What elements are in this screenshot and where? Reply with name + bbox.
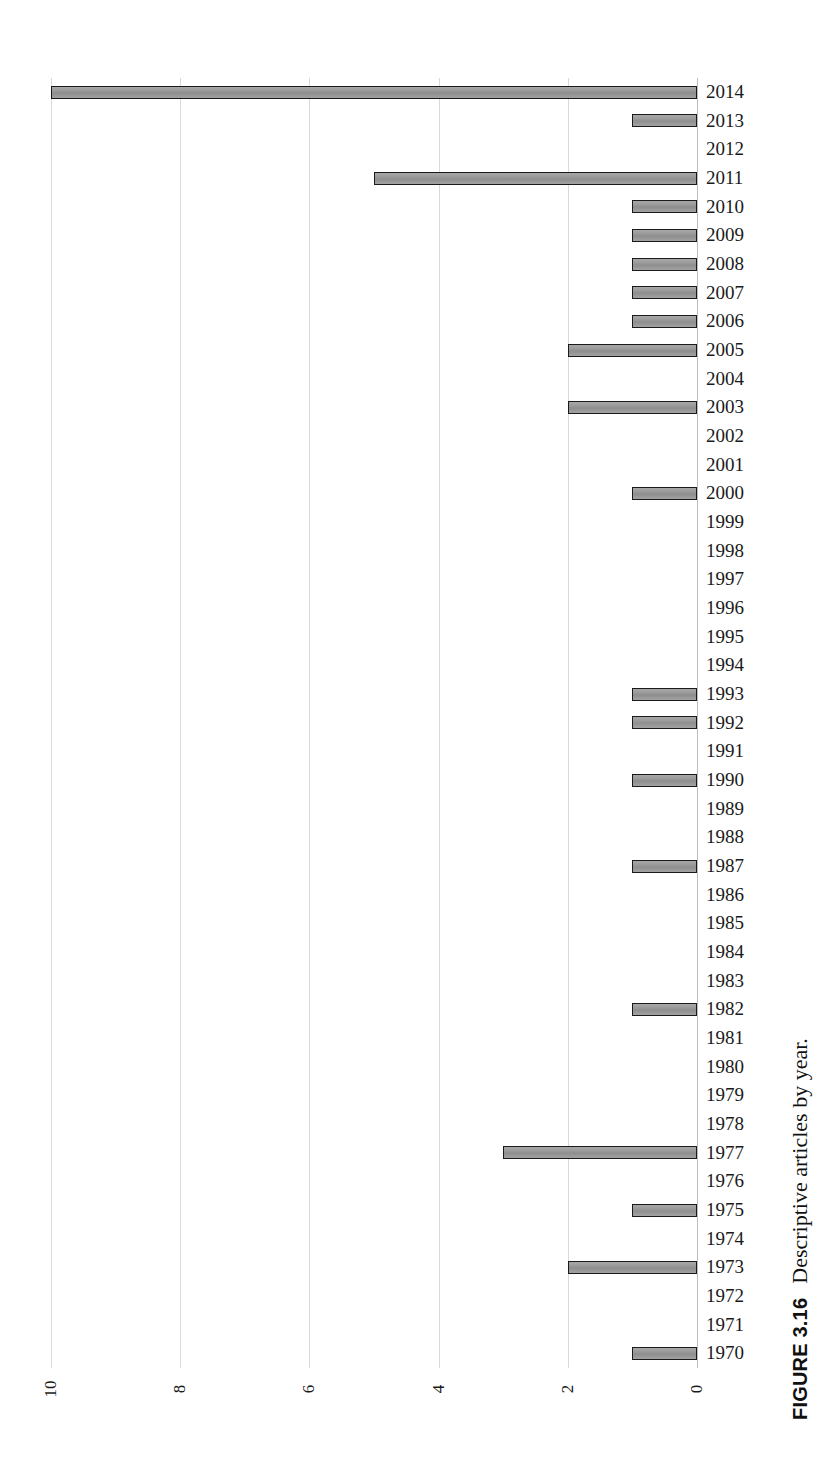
bar-row: 2008 bbox=[0, 250, 706, 279]
bar-1987 bbox=[632, 860, 697, 873]
bar-1973 bbox=[568, 1261, 697, 1274]
bar-2007 bbox=[632, 286, 697, 299]
bar-1970 bbox=[632, 1347, 697, 1360]
tick-label-10: 10 bbox=[34, 1372, 68, 1406]
bar-2010 bbox=[632, 200, 697, 213]
bar-row: 1984 bbox=[0, 938, 706, 967]
bar-row: 1970 bbox=[0, 1339, 706, 1368]
bar-row: 1999 bbox=[0, 508, 706, 537]
bar-row: 1976 bbox=[0, 1167, 706, 1196]
tick-label-4: 4 bbox=[422, 1372, 456, 1406]
bar-row: 1992 bbox=[0, 709, 706, 738]
bar-2000 bbox=[632, 487, 697, 500]
bar-row: 1989 bbox=[0, 795, 706, 824]
bar-row: 2013 bbox=[0, 107, 706, 136]
bar-row: 2004 bbox=[0, 365, 706, 394]
figure-caption: FIGURE 3.16Descriptive articles by year. bbox=[737, 0, 799, 1462]
bar-row: 1979 bbox=[0, 1081, 706, 1110]
bar-row: 2014 bbox=[0, 78, 706, 107]
bar-2005 bbox=[568, 344, 697, 357]
bar-2006 bbox=[632, 315, 697, 328]
bar-row: 2006 bbox=[0, 307, 706, 336]
bar-row: 1972 bbox=[0, 1282, 706, 1311]
bar-row: 1980 bbox=[0, 1053, 706, 1082]
bar-row: 1983 bbox=[0, 967, 706, 996]
bar-row: 2012 bbox=[0, 135, 706, 164]
bar-row: 2002 bbox=[0, 422, 706, 451]
bar-row: 1974 bbox=[0, 1225, 706, 1254]
bar-1992 bbox=[632, 716, 697, 729]
bar-1982 bbox=[632, 1003, 697, 1016]
bar-2003 bbox=[568, 401, 697, 414]
bar-row: 1988 bbox=[0, 823, 706, 852]
bar-row: 1991 bbox=[0, 737, 706, 766]
bar-2008 bbox=[632, 258, 697, 271]
bar-row: 2001 bbox=[0, 451, 706, 480]
bar-row: 1981 bbox=[0, 1024, 706, 1053]
tick-label-8: 8 bbox=[163, 1372, 197, 1406]
bar-row: 2007 bbox=[0, 279, 706, 308]
bar-1975 bbox=[632, 1204, 697, 1217]
value-axis-tick-labels: 1086420 bbox=[0, 1372, 706, 1432]
bar-row: 1995 bbox=[0, 623, 706, 652]
figure-caption-text: Descriptive articles by year. bbox=[787, 1038, 812, 1284]
tick-label-0: 0 bbox=[680, 1372, 714, 1406]
bar-row: 1990 bbox=[0, 766, 706, 795]
bar-row: 2009 bbox=[0, 221, 706, 250]
tick-label-2: 2 bbox=[551, 1372, 585, 1406]
bar-2009 bbox=[632, 229, 697, 242]
bar-1977 bbox=[503, 1146, 697, 1159]
bar-row: 2000 bbox=[0, 479, 706, 508]
chart-plot-area: 2014201320122011201020092008200720062005… bbox=[0, 78, 706, 1368]
bar-row: 1978 bbox=[0, 1110, 706, 1139]
bar-2011 bbox=[374, 172, 697, 185]
bar-row: 2003 bbox=[0, 393, 706, 422]
bar-1993 bbox=[632, 688, 697, 701]
bar-1990 bbox=[632, 774, 697, 787]
bar-row: 1985 bbox=[0, 909, 706, 938]
bar-row: 2010 bbox=[0, 193, 706, 222]
bar-row: 1982 bbox=[0, 995, 706, 1024]
bar-row: 2011 bbox=[0, 164, 706, 193]
bar-2013 bbox=[632, 114, 697, 127]
bar-row: 1997 bbox=[0, 565, 706, 594]
bar-row: 1996 bbox=[0, 594, 706, 623]
bar-row: 1998 bbox=[0, 537, 706, 566]
bar-row: 1973 bbox=[0, 1253, 706, 1282]
bar-row: 1977 bbox=[0, 1139, 706, 1168]
bar-rows-group: 2014201320122011201020092008200720062005… bbox=[0, 78, 706, 1368]
tick-label-6: 6 bbox=[292, 1372, 326, 1406]
bar-row: 1993 bbox=[0, 680, 706, 709]
bar-row: 2005 bbox=[0, 336, 706, 365]
bar-row: 1987 bbox=[0, 852, 706, 881]
bar-row: 1975 bbox=[0, 1196, 706, 1225]
bar-2014 bbox=[51, 86, 697, 99]
figure-number-label: FIGURE 3.16 bbox=[789, 1298, 811, 1420]
bar-row: 1994 bbox=[0, 651, 706, 680]
bar-row: 1971 bbox=[0, 1311, 706, 1340]
bar-row: 1986 bbox=[0, 881, 706, 910]
